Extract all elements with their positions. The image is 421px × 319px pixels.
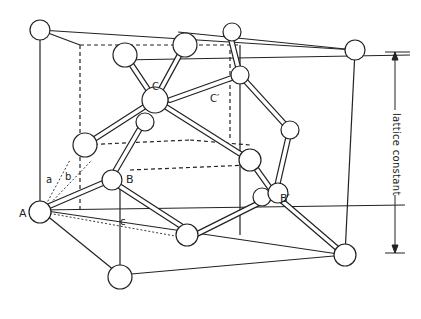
atom [345,40,365,60]
atom [281,121,299,139]
atom [173,33,197,57]
label-B: B [126,174,134,185]
atom [223,23,241,41]
atom-A [29,201,51,223]
atom [73,133,97,157]
label-b: b [65,172,71,182]
lattice-diagram [0,0,421,319]
label-C-prime: C′ [210,94,219,104]
atom-C-prime [231,66,249,84]
atom [113,43,137,67]
label-B-prime: B′ [280,193,290,204]
atom [239,149,261,171]
atom [108,265,132,289]
cube-edges [40,30,410,275]
atom [136,113,154,131]
label-a: a [46,175,52,185]
atom [334,244,356,266]
atom [30,20,50,40]
label-A: A [19,208,27,219]
atom [176,224,198,246]
label-C: C [152,82,159,92]
lattice-constant-label: lattice constant [391,113,402,196]
atom-B [102,170,122,190]
label-c: c [120,217,126,227]
